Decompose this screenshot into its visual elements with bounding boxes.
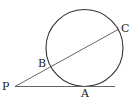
- label-b: B: [38, 57, 46, 70]
- label-a: A: [80, 87, 90, 99]
- geometry-diagram: P A B C: [0, 0, 133, 99]
- secant-line-pbc: [15, 29, 119, 87]
- label-p: P: [2, 80, 10, 93]
- label-c: C: [121, 22, 129, 35]
